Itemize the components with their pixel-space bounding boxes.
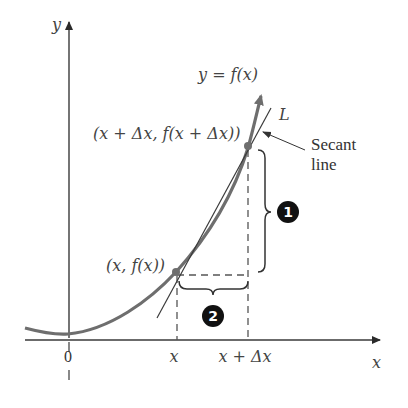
secant-callout-arrow: [263, 132, 305, 150]
secant-line-diagram: 1 2 y x 0 x x + Δx y = f(x) L Secant lin…: [0, 0, 408, 408]
badge-1: 1: [277, 201, 299, 223]
point-x-fx: [172, 268, 180, 276]
y-axis-label: y: [51, 15, 62, 34]
x-axis-label: x: [372, 353, 381, 372]
point-x-plus-dx: [244, 142, 252, 150]
secant-label-L: L: [278, 105, 290, 124]
curve-label: y = f(x): [197, 65, 258, 84]
secant-callout-line2: line: [311, 155, 337, 174]
brace-rise: [258, 150, 271, 272]
badge-2: 2: [202, 305, 224, 327]
x-tick-x-plus-dx: x + Δx: [218, 347, 271, 366]
x-tick-x: x: [169, 347, 178, 366]
point-label-x-plus-dx: (x + Δx, f(x + Δx)): [93, 124, 240, 143]
point-label-x-fx: (x, f(x)): [106, 256, 165, 275]
brace-run: [179, 281, 248, 295]
badge-1-label: 1: [283, 204, 293, 220]
badge-2-label: 2: [208, 308, 218, 324]
diagram-canvas: 1 2 y x 0 x x + Δx y = f(x) L Secant lin…: [0, 0, 408, 408]
secant-callout-line1: Secant: [311, 135, 357, 154]
origin-label: 0: [64, 348, 72, 365]
